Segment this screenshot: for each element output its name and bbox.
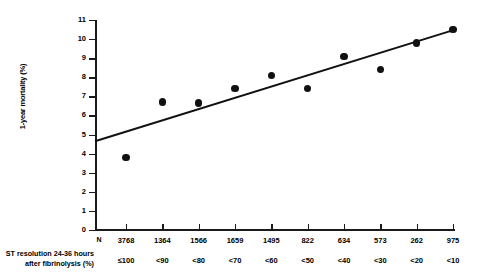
x-axis-caption-line1: ST resolution 24-36 hours: [2, 249, 94, 259]
n-value-cell: 975: [425, 236, 480, 245]
y-tick-label-2: 2: [66, 188, 86, 196]
data-point: [231, 85, 238, 92]
y-axis-label: 1-year mortality (%): [18, 31, 27, 163]
data-point: [195, 99, 202, 106]
data-point: [122, 154, 129, 161]
x-axis-caption: ST resolution 24-36 hours after fibrinol…: [2, 249, 94, 268]
y-tick-label-0: 0: [66, 226, 86, 234]
y-tick-label-4: 4: [66, 150, 86, 158]
y-tick-label-8: 8: [66, 73, 86, 81]
y-tick-label-6: 6: [66, 111, 86, 119]
data-point: [268, 72, 275, 79]
data-point: [159, 98, 166, 105]
data-point: [377, 66, 384, 73]
plot-area: [95, 20, 455, 230]
y-tick-label-11: 11: [66, 16, 86, 24]
x-axis-caption-line2: after fibrinolysis (%): [2, 259, 94, 269]
y-tick-0: [89, 230, 95, 231]
y-tick-label-10: 10: [66, 35, 86, 43]
data-point: [340, 53, 347, 60]
category-cell: <10: [425, 256, 480, 265]
data-point: [449, 26, 456, 33]
y-tick-label-5: 5: [66, 131, 86, 139]
data-point: [304, 85, 311, 92]
chart-figure: 1-year mortality (%) 01234567891011 N 37…: [0, 0, 480, 279]
y-tick-label-9: 9: [66, 54, 86, 62]
y-tick-label-7: 7: [66, 92, 86, 100]
data-point: [413, 39, 420, 46]
y-tick-label-3: 3: [66, 169, 86, 177]
y-tick-label-1: 1: [66, 207, 86, 215]
